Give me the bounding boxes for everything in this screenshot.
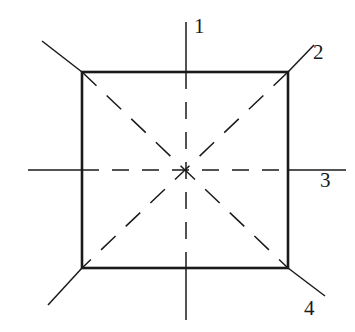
axis-4-outer-nw-segment xyxy=(42,41,82,72)
axis-1-label: 1 xyxy=(194,16,205,37)
axis-4-group xyxy=(42,41,325,296)
axis-2-outer-sw-segment xyxy=(48,268,82,305)
axis-3-label: 3 xyxy=(320,170,331,191)
axis-2-group xyxy=(48,45,314,305)
axis-4-outer-se-segment xyxy=(288,268,325,296)
symmetry-axes-figure: 1 2 3 4 xyxy=(0,0,355,332)
axis-4-label: 4 xyxy=(304,298,315,319)
axis-2-outer-ne-segment xyxy=(288,45,314,72)
figure-canvas xyxy=(0,0,355,332)
axis-2-label: 2 xyxy=(313,42,324,63)
